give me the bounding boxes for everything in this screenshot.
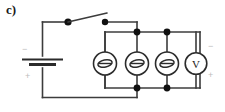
circuit-diagram-svg: − +	[0, 0, 225, 112]
junction-top-1	[134, 29, 141, 36]
voltmeter-negative-label: −	[208, 41, 213, 51]
junction-top-2	[164, 29, 171, 36]
meter-2-galvanometer[interactable]	[126, 52, 149, 75]
knife-switch[interactable]	[64, 13, 108, 26]
battery-negative-label: −	[22, 44, 27, 54]
meter-4-label: V	[192, 58, 200, 70]
voltmeter-polarity-marks: − +	[208, 41, 213, 80]
meter-1-galvanometer[interactable]	[94, 52, 117, 75]
voltmeter-positive-label: +	[208, 70, 213, 80]
battery-positive-label: +	[25, 71, 30, 81]
meter-leads	[105, 32, 196, 88]
meter-4-voltmeter[interactable]: V	[185, 53, 207, 75]
junction-bottom-2	[164, 85, 171, 92]
meter-3-galvanometer[interactable]	[156, 52, 179, 75]
circuit-figure: c) − +	[0, 0, 225, 112]
switch-lever[interactable]	[68, 13, 107, 22]
switch-contact-node[interactable]	[102, 19, 108, 25]
junction-bottom-1	[134, 85, 141, 92]
